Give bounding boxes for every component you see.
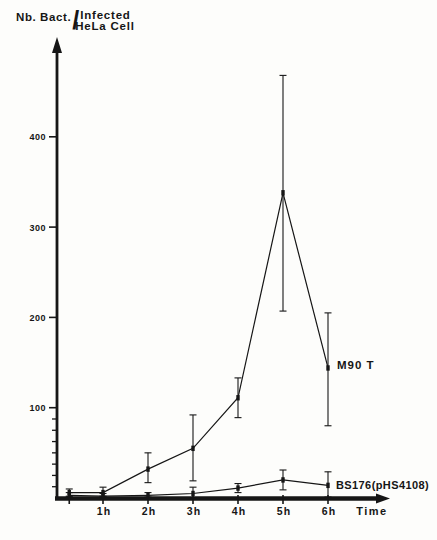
chart-canvas: 1002003004001h2h3h4h5h6hTimeM90 TBS176(p… [0, 0, 437, 540]
series-line-bs176 [69, 480, 328, 496]
y-axis-arrowhead [52, 37, 62, 53]
scientific-figure: Nb. Bact. / Infected HeLa Cell 100200300… [0, 0, 437, 540]
y-tick-label: 200 [29, 313, 46, 323]
x-axis-arrowhead [376, 494, 390, 504]
data-point-marker [191, 446, 194, 451]
x-tick-label: 6h [322, 505, 336, 517]
x-tick-label: 1h [97, 505, 111, 517]
data-point-marker [281, 477, 284, 482]
x-tick-label: 3h [187, 505, 201, 517]
data-point-marker [191, 491, 194, 496]
y-tick-label: 400 [29, 132, 46, 142]
series-label-m90t: M90 T [337, 359, 375, 371]
y-tick-label: 300 [29, 223, 46, 233]
data-point-marker [326, 483, 329, 488]
x-tick-label: 5h [277, 505, 291, 517]
series-label-bs176: BS176(pHS4108) [336, 479, 429, 491]
data-point-marker [146, 466, 149, 471]
data-point-marker [236, 395, 239, 400]
x-axis-label: Time [356, 505, 387, 517]
data-point-marker [236, 485, 239, 490]
x-tick-label: 2h [142, 505, 156, 517]
data-point-marker [68, 493, 71, 498]
data-point-marker [326, 365, 329, 370]
data-point-marker [281, 190, 284, 195]
data-point-marker [146, 493, 149, 498]
series-line-m90t [69, 193, 328, 493]
x-tick-label: 4h [232, 505, 246, 517]
y-tick-label: 100 [29, 403, 46, 413]
data-point-marker [101, 493, 104, 498]
